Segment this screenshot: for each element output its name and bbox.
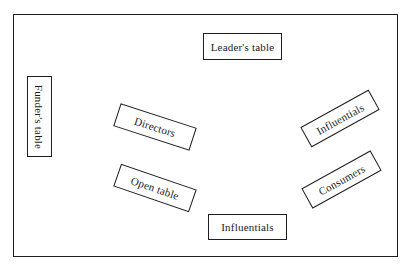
funders-table-label: Funder's table <box>34 84 46 148</box>
influentials-bottom-table-label: Influentials <box>221 221 274 233</box>
leaders-table: Leader's table <box>203 33 282 60</box>
influentials-bottom-table: Influentials <box>208 214 287 240</box>
leaders-table-label: Leader's table <box>211 41 275 53</box>
funders-table: Funder's table <box>27 76 52 157</box>
